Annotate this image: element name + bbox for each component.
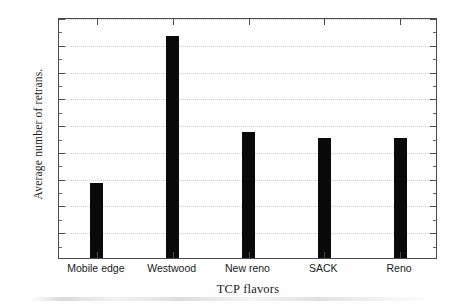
y-tick-mark (59, 73, 65, 74)
y-minor-tick-right (433, 113, 436, 114)
bar-mobile-edge (90, 183, 103, 259)
y-minor-tick-right (433, 140, 436, 141)
y-minor-tick (59, 32, 62, 33)
gridline (59, 126, 436, 127)
gridline (59, 73, 436, 74)
y-tick-mark (59, 126, 65, 127)
y-tick-mark-right (430, 126, 436, 127)
y-tick-mark-right (430, 206, 436, 207)
y-minor-tick (59, 86, 62, 87)
x-tick-mark-top (400, 19, 401, 25)
x-tick-mark-top (249, 19, 250, 25)
y-tick-mark-right (430, 180, 436, 181)
y-tick-mark-right (430, 233, 436, 234)
y-minor-tick (59, 140, 62, 141)
scan-artifact (30, 297, 430, 301)
bar-chart-figure: Average number of retrans. 0510152025303… (0, 0, 457, 308)
y-tick-mark-right (430, 153, 436, 154)
y-minor-tick (59, 247, 62, 248)
y-minor-tick-right (433, 166, 436, 167)
y-tick-mark-right (430, 73, 436, 74)
y-tick-mark-right (430, 99, 436, 100)
y-minor-tick-right (433, 32, 436, 33)
y-minor-tick (59, 220, 62, 221)
y-minor-tick (59, 59, 62, 60)
x-tick-mark-top (97, 19, 98, 25)
x-tick-mark-bottom (249, 252, 250, 258)
y-tick-mark (59, 99, 65, 100)
y-axis-title: Average number of retrans. (32, 34, 44, 234)
x-tick-mark-bottom (173, 252, 174, 258)
y-tick-mark (59, 233, 65, 234)
y-minor-tick (59, 113, 62, 114)
plot-area (58, 18, 437, 259)
x-tick-mark-bottom (324, 252, 325, 258)
y-minor-tick-right (433, 220, 436, 221)
gridline (59, 99, 436, 100)
bar-sack (318, 138, 331, 259)
x-axis-title: TCP flavors (58, 282, 438, 297)
y-tick-mark (59, 206, 65, 207)
x-tick-mark-top (324, 19, 325, 25)
y-minor-tick (59, 193, 62, 194)
x-tick-mark-bottom (97, 252, 98, 258)
y-minor-tick-right (433, 86, 436, 87)
gridline (59, 46, 436, 47)
y-tick-mark (59, 19, 65, 20)
bar-new-reno (242, 132, 255, 258)
y-minor-tick-right (433, 193, 436, 194)
y-minor-tick-right (433, 59, 436, 60)
x-tick-mark-top (173, 19, 174, 25)
y-tick-mark-right (430, 46, 436, 47)
y-minor-tick (59, 166, 62, 167)
x-tick-label: Reno (344, 262, 454, 274)
y-tick-mark (59, 180, 65, 181)
y-tick-mark (59, 153, 65, 154)
bar-westwood (166, 36, 179, 258)
bar-reno (394, 138, 407, 259)
y-tick-mark (59, 46, 65, 47)
y-tick-mark-right (430, 19, 436, 20)
gridline (59, 19, 436, 20)
y-minor-tick-right (433, 247, 436, 248)
x-tick-mark-bottom (400, 252, 401, 258)
